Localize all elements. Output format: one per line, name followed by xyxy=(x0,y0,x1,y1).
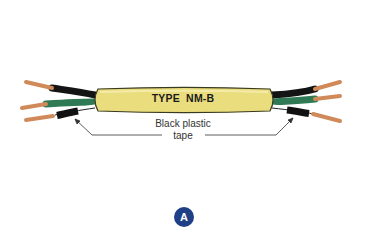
callout-line-1: Black plastic xyxy=(143,118,223,130)
figure-badge: A xyxy=(174,207,194,227)
right-conductors xyxy=(272,82,340,121)
left-conductors xyxy=(22,82,95,120)
callout-line-2: tape xyxy=(143,130,223,142)
cable-type-label: TYPE NM-B xyxy=(133,92,233,104)
tape-callout: Black plastic tape xyxy=(143,118,223,142)
